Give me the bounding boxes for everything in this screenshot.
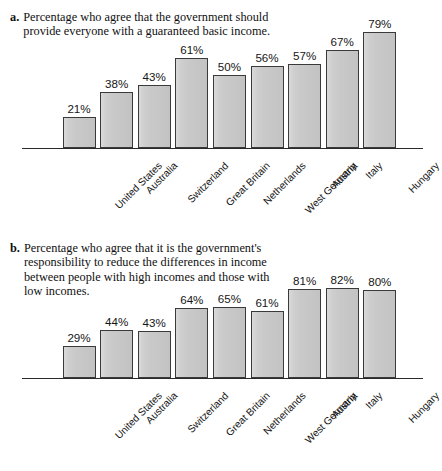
bar-value-label: 56% <box>255 52 278 64</box>
bar-column <box>213 307 246 379</box>
bar-value-label: 57% <box>293 50 316 62</box>
bar-column <box>288 289 321 378</box>
bar <box>138 85 171 148</box>
bar-column <box>251 311 284 378</box>
bar-value-label: 64% <box>180 294 203 306</box>
bar-value-label: 43% <box>143 317 166 329</box>
plot-area-b: 29%44%43%64%65%61%81%82%80% <box>0 233 442 383</box>
bar <box>100 92 133 148</box>
bar <box>251 66 284 148</box>
bar-column <box>138 331 171 378</box>
bar <box>100 330 133 378</box>
bar <box>63 117 96 148</box>
bar <box>363 290 396 378</box>
bar <box>175 308 208 378</box>
chart-panel-a: a. Percentage who agree that the governm… <box>0 0 442 235</box>
bar <box>251 311 284 378</box>
bar <box>63 346 96 378</box>
bar <box>288 289 321 378</box>
x-tick-label: Italy <box>363 160 384 181</box>
bar-column <box>63 346 96 378</box>
bar <box>213 307 246 379</box>
bar-column <box>363 32 396 148</box>
x-tick-label: Switzerland <box>185 160 230 205</box>
bar-value-label: 65% <box>218 293 241 305</box>
bar-value-label: 38% <box>105 78 128 90</box>
bar-value-label: 50% <box>218 61 241 73</box>
chart-panel-b: b. Percentage who agree that it is the g… <box>0 233 442 471</box>
x-tick-label: Switzerland <box>185 390 230 435</box>
bar <box>326 288 359 378</box>
bar-column <box>251 66 284 148</box>
bar-column <box>100 330 133 378</box>
bar-value-label: 67% <box>331 36 354 48</box>
bar <box>175 58 208 148</box>
x-axis-line-a <box>22 148 423 149</box>
bar <box>326 50 359 148</box>
bar-column <box>100 92 133 148</box>
x-tick-labels-a: United StatesAustraliaSwitzerlandGreat B… <box>0 150 442 230</box>
bar-column <box>213 75 246 149</box>
bar-value-label: 82% <box>331 274 354 286</box>
bar-column <box>363 290 396 378</box>
bar-column <box>138 85 171 148</box>
bar-column <box>63 117 96 148</box>
bar-group-b: 29%44%43%64%65%61%81%82%80% <box>0 233 442 383</box>
bar <box>363 32 396 148</box>
bar-column <box>326 50 359 148</box>
bar-value-label: 81% <box>293 275 316 287</box>
bar-value-label: 29% <box>67 332 90 344</box>
x-tick-label: Hungary <box>407 390 442 425</box>
x-tick-labels-b: United StatesAustraliaSwitzerlandGreat B… <box>0 380 442 465</box>
bar-column <box>175 308 208 378</box>
bar-value-label: 43% <box>143 71 166 83</box>
bar-column <box>326 288 359 378</box>
bar-value-label: 80% <box>368 276 391 288</box>
plot-area-a: 21%38%43%61%50%56%57%67%79% <box>0 0 442 155</box>
bar <box>288 64 321 148</box>
bar-value-label: 61% <box>255 297 278 309</box>
bar-column <box>288 64 321 148</box>
bar-value-label: 61% <box>180 44 203 56</box>
bar-value-label: 21% <box>67 103 90 115</box>
bar-column <box>175 58 208 148</box>
bar-value-label: 44% <box>105 316 128 328</box>
bar <box>213 75 246 149</box>
x-tick-label: Italy <box>363 390 384 411</box>
x-axis-line-b <box>22 378 423 379</box>
bar <box>138 331 171 378</box>
bar-group-a: 21%38%43%61%50%56%57%67%79% <box>0 0 442 155</box>
x-tick-label: Hungary <box>407 160 442 195</box>
bar-value-label: 79% <box>368 18 391 30</box>
